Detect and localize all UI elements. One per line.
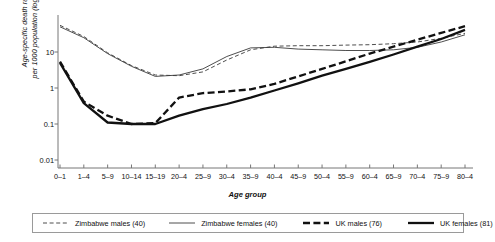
legend-swatch-icon xyxy=(408,218,434,228)
x-tick-label: 25–9 xyxy=(195,172,211,181)
x-tick-label: 70–4 xyxy=(409,172,425,181)
x-tick-label: 50–4 xyxy=(314,172,330,181)
legend-swatch-icon xyxy=(43,218,69,228)
x-tick-label: 45–9 xyxy=(290,172,306,181)
legend-label: Zimbabwe males (40) xyxy=(75,219,145,228)
x-axis-tick-labels: 0–11–45–910–1415–1920–425–930–435–940–44… xyxy=(0,0,495,242)
legend-label: UK females (81) xyxy=(440,219,493,228)
x-tick-label: 60–4 xyxy=(362,172,378,181)
legend-swatch-icon xyxy=(169,218,195,228)
legend-item: UK females (81) xyxy=(408,214,493,232)
x-tick-label: 35–9 xyxy=(243,172,259,181)
chart-figure: Age-specific death rates per 1000 popula… xyxy=(0,0,495,242)
x-tick-label: 75–9 xyxy=(433,172,449,181)
x-tick-label: 55–9 xyxy=(338,172,354,181)
x-tick-label: 15–19 xyxy=(145,172,165,181)
legend-label: Zimbabwe females (40) xyxy=(201,219,277,228)
chart-legend: Zimbabwe males (40)Zimbabwe females (40)… xyxy=(32,213,464,233)
x-tick-label: 20–4 xyxy=(171,172,187,181)
legend-swatch-icon xyxy=(303,218,329,228)
legend-item: UK males (76) xyxy=(303,214,382,232)
x-tick-label: 5–9 xyxy=(102,172,114,181)
x-tick-label: 30–4 xyxy=(219,172,235,181)
x-tick-label: 65–9 xyxy=(386,172,402,181)
x-tick-label: 0–1 xyxy=(54,172,66,181)
x-axis-title: Age group xyxy=(0,190,495,199)
x-tick-label: 40–4 xyxy=(266,172,282,181)
x-tick-label: 80–4 xyxy=(457,172,473,181)
x-tick-label: 10–14 xyxy=(121,172,141,181)
x-tick-label: 1–4 xyxy=(78,172,90,181)
legend-item: Zimbabwe females (40) xyxy=(169,214,277,232)
legend-label: UK males (76) xyxy=(335,219,382,228)
legend-item: Zimbabwe males (40) xyxy=(43,214,145,232)
